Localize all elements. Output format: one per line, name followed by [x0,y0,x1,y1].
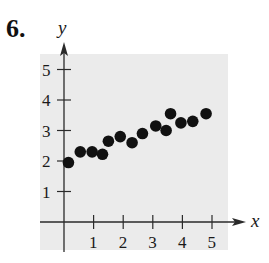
x-tick-label: 1 [89,233,98,252]
y-tick-label: 5 [42,61,51,80]
y-tick-label: 3 [42,122,51,141]
data-point [97,148,109,160]
plot-background [40,54,228,250]
x-tick-label: 4 [178,233,187,252]
data-point [63,157,75,169]
data-point [150,120,162,132]
y-tick-label: 4 [42,91,51,110]
y-tick-label: 1 [42,183,51,202]
data-point [187,116,199,128]
data-point [103,135,115,147]
scatter-plot: xy 1234512345 [0,0,269,263]
data-point [160,125,172,137]
data-point [200,108,212,120]
y-tick-label: 2 [42,152,51,171]
x-tick-label: 5 [208,233,217,252]
data-point [114,131,126,143]
x-tick-label: 3 [148,233,157,252]
data-point [137,128,149,140]
data-point [86,146,98,158]
data-point [74,146,86,158]
x-tick-label: 2 [119,233,128,252]
data-point [165,108,177,120]
x-axis-label: x [250,210,260,231]
data-point [126,137,138,149]
data-point [175,117,187,129]
y-axis-label: y [56,17,67,38]
